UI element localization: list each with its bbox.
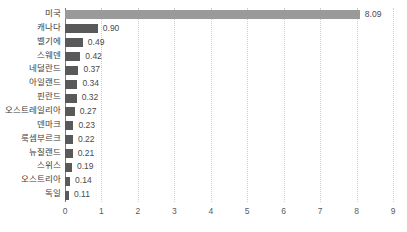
bar[interactable] xyxy=(65,24,98,33)
bar-value-label: 0.19 xyxy=(77,161,94,172)
category-label-row: 핀란드 xyxy=(0,91,61,105)
plot-area: 8.090.900.490.420.370.340.320.270.230.22… xyxy=(65,8,393,202)
category-label: 오스트레일리아 xyxy=(1,105,61,116)
x-tick-label-7: 7 xyxy=(318,206,323,217)
category-label-row: 아일랜드 xyxy=(0,77,61,91)
bar-value-label: 0.32 xyxy=(82,92,99,103)
bar-row[interactable]: 0.11 xyxy=(65,188,393,202)
bar-value-label: 0.14 xyxy=(75,175,92,186)
category-label: 미국 xyxy=(1,8,61,19)
bar-row[interactable]: 0.22 xyxy=(65,133,393,147)
bar[interactable] xyxy=(65,10,360,19)
category-label: 핀란드 xyxy=(1,91,61,102)
category-label-row: 룩셈부르크 xyxy=(0,133,61,147)
category-label: 독일 xyxy=(1,188,61,199)
bar[interactable] xyxy=(65,177,70,186)
bar-row[interactable]: 0.14 xyxy=(65,174,393,188)
category-label: 벨기에 xyxy=(1,36,61,47)
category-label: 스위스 xyxy=(1,160,61,171)
category-label-row: 미국 xyxy=(0,8,61,22)
bar-row[interactable]: 0.19 xyxy=(65,160,393,174)
category-label: 오스트리아 xyxy=(1,174,61,185)
bar[interactable] xyxy=(65,80,77,89)
bar-value-label: 0.22 xyxy=(78,134,95,145)
bar[interactable] xyxy=(65,94,77,103)
bar-row[interactable]: 0.27 xyxy=(65,105,393,119)
bar[interactable] xyxy=(65,135,73,144)
bar[interactable] xyxy=(65,121,73,130)
bar-row[interactable]: 0.49 xyxy=(65,36,393,50)
bar[interactable] xyxy=(65,149,73,158)
bar-rows: 8.090.900.490.420.370.340.320.270.230.22… xyxy=(65,8,393,202)
category-label-row: 오스트레일리아 xyxy=(0,105,61,119)
bar-value-label: 0.11 xyxy=(74,189,90,200)
category-label: 룩셈부르크 xyxy=(1,133,61,144)
x-tick-label-8: 8 xyxy=(354,206,359,217)
bar-value-label: 0.42 xyxy=(85,51,102,62)
bar-row[interactable]: 0.42 xyxy=(65,50,393,64)
category-label-row: 스웨덴 xyxy=(0,50,61,64)
x-tick-label-4: 4 xyxy=(208,206,213,217)
bar-row[interactable]: 0.37 xyxy=(65,63,393,77)
bar-row[interactable]: 0.32 xyxy=(65,91,393,105)
category-label: 뉴질랜드 xyxy=(1,147,61,158)
category-label-row: 뉴질랜드 xyxy=(0,147,61,161)
bar-value-label: 0.34 xyxy=(82,78,99,89)
category-label: 스웨덴 xyxy=(1,50,61,61)
x-axis-tick-labels: 0123456789 xyxy=(65,204,393,220)
category-label-row: 벨기에 xyxy=(0,36,61,50)
category-label-row: 오스트리아 xyxy=(0,174,61,188)
x-tick-label-0: 0 xyxy=(63,206,68,217)
category-label: 덴마크 xyxy=(1,119,61,130)
category-label: 캐나다 xyxy=(1,22,61,33)
category-label-row: 캐나다 xyxy=(0,22,61,36)
bar-chart: 미국캐나다벨기에스웨덴네덜란드아일랜드핀란드오스트레일리아덴마크룩셈부르크뉴질랜… xyxy=(0,0,407,232)
x-tick-label-5: 5 xyxy=(245,206,250,217)
category-label-row: 네덜란드 xyxy=(0,63,61,77)
bar-value-label: 0.37 xyxy=(83,64,100,75)
category-label: 아일랜드 xyxy=(1,77,61,88)
bar[interactable] xyxy=(65,38,83,47)
bar[interactable] xyxy=(65,107,75,116)
bar-row[interactable]: 0.21 xyxy=(65,147,393,161)
x-tick-label-1: 1 xyxy=(99,206,104,217)
x-tick-label-2: 2 xyxy=(136,206,141,217)
bar-value-label: 0.21 xyxy=(78,148,95,159)
bar-value-label: 0.49 xyxy=(88,37,105,48)
gridline-9 xyxy=(393,8,394,202)
bar[interactable] xyxy=(65,163,72,172)
category-axis-labels: 미국캐나다벨기에스웨덴네덜란드아일랜드핀란드오스트레일리아덴마크룩셈부르크뉴질랜… xyxy=(0,8,61,202)
bar-value-label: 8.09 xyxy=(365,9,382,20)
bar[interactable] xyxy=(65,52,80,61)
x-tick-label-9: 9 xyxy=(391,206,396,217)
bar[interactable] xyxy=(65,191,69,200)
category-label-row: 덴마크 xyxy=(0,119,61,133)
bar-row[interactable]: 0.90 xyxy=(65,22,393,36)
x-tick-label-3: 3 xyxy=(172,206,177,217)
category-label: 네덜란드 xyxy=(1,63,61,74)
bar[interactable] xyxy=(65,66,78,75)
bar-row[interactable]: 8.09 xyxy=(65,8,393,22)
bar-row[interactable]: 0.23 xyxy=(65,119,393,133)
bar-value-label: 0.23 xyxy=(78,120,95,131)
bar-value-label: 0.90 xyxy=(103,23,120,34)
x-tick-label-6: 6 xyxy=(281,206,286,217)
bar-row[interactable]: 0.34 xyxy=(65,77,393,91)
category-label-row: 스위스 xyxy=(0,160,61,174)
category-label-row: 독일 xyxy=(0,188,61,202)
bar-value-label: 0.27 xyxy=(80,106,97,117)
